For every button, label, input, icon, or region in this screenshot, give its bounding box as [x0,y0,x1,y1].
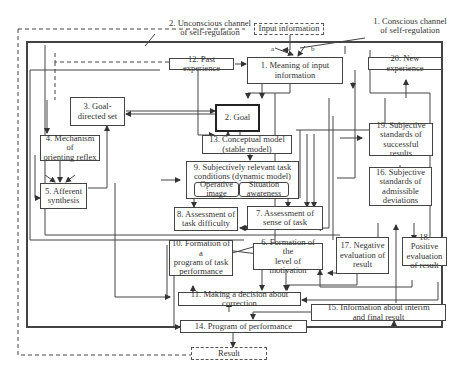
node-6-formation-of-motivation: 6. Formation of the level of motivation [253,243,323,270]
node-2-goal: 2. Goal [215,104,260,132]
node-10-formation-of-program: 10. Formation of a program of task perfo… [169,240,233,276]
channel-b-label: b [311,45,315,53]
node-3-goal-directed-set: 3. Goal- directed set [70,97,125,126]
input-information-box: Input information [254,23,324,35]
node-9b-situation-awareness: Situation awareness [239,182,289,197]
unconscious-channel-label: 2. Unconscious channel of self-regulatio… [160,19,260,38]
node-14-program-of-performance: 14. Program of performance [180,320,307,333]
node-16-admissible-deviations: 16. Subjective standards of admissible d… [369,167,432,206]
node-20-new-experience: 20. New experience [368,57,442,70]
node-18-positive-evaluation: 18. Positive evaluation of result [402,237,447,266]
node-19-successful-results: 19. Subjective standards of successful r… [369,123,433,156]
node-13-conceptual-model: 13. Conceptual model (stable model) [202,135,292,154]
node-5-afferent-synthesis: 5. Afferent synthesis [40,183,87,209]
node-1-meaning-of-input: 1. Meaning of input information [247,57,343,84]
node-11-decision-about-correction: 11. Making a decision about correction [178,292,301,306]
node-12-past-experience: 12. Past experience [169,58,234,70]
node-4-orienting-reflex: 4. Mechanism of orienting reflex [40,135,100,161]
node-17-negative-evaluation: 17. Negative evaluation of result [336,237,389,274]
node-9a-operative-image: Operative image [194,182,239,197]
result-box: Result [191,347,267,360]
conscious-channel-label: 1. Conscious channel of self-regulation [360,17,460,36]
node-15-information-about-result: 15. Information about interim and final … [311,304,446,321]
node-7-assessment-of-sense: 7. Assessment of sense of task [247,206,323,230]
node-8-assessment-of-difficulty: 8. Assessment of task difficulty [174,207,238,231]
channel-a-label: a [271,45,274,53]
